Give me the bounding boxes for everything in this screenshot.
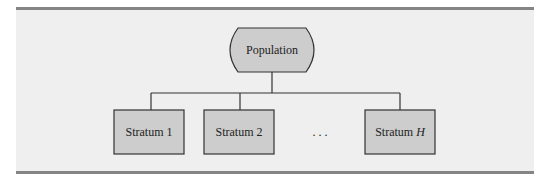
stratum-1-label: Stratum 1 (114, 110, 184, 154)
stratum-2-label: Stratum 2 (204, 110, 274, 154)
connector-lines (151, 72, 400, 110)
population-label: Population (228, 28, 316, 72)
stratum-h-label: Stratum H (365, 110, 435, 154)
ellipsis: . . . (290, 120, 350, 144)
stratum-h-italic: H (416, 125, 425, 140)
